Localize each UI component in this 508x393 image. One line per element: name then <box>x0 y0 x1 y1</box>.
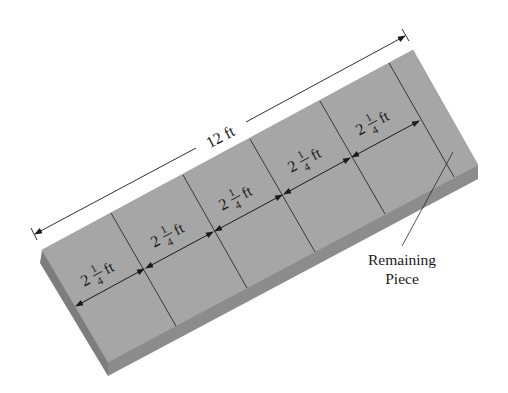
callout-remaining: Remaining <box>368 251 436 268</box>
overall-length-label: 12 ft <box>203 122 238 151</box>
callout-piece: Piece <box>385 270 419 287</box>
board-diagram: 12 ft 2 1 4 ft 2 1 4 ft 2 1 4 ft 2 1 4 f… <box>0 0 508 393</box>
